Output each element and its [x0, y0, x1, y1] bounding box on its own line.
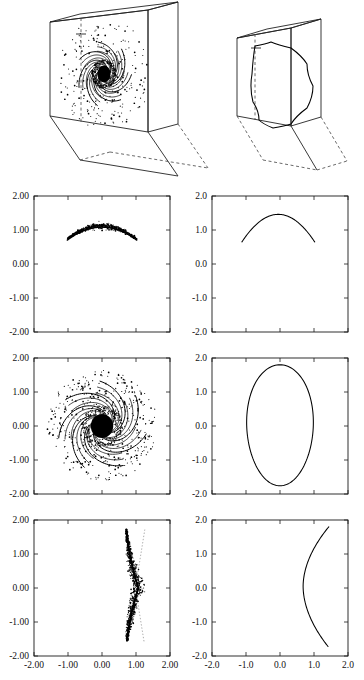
data-point [131, 83, 132, 84]
data-point [117, 415, 118, 416]
data-point [96, 404, 97, 405]
data-point [118, 26, 119, 27]
data-point [114, 68, 115, 69]
data-point [142, 63, 143, 64]
teardrop-curve [251, 42, 313, 128]
data-point [103, 456, 104, 457]
data-point [145, 423, 146, 424]
data-point [130, 546, 131, 547]
data-point [131, 439, 132, 440]
data-point [114, 99, 115, 100]
data-point [109, 225, 110, 226]
data-point [116, 29, 117, 30]
data-point [88, 425, 89, 426]
data-point [103, 87, 104, 88]
plot-r1c1: 2.001.000.00-1.00-2.00 [0, 186, 182, 344]
data-point [117, 446, 118, 447]
data-point [117, 379, 118, 380]
data-point [137, 447, 138, 448]
data-point [83, 418, 84, 419]
data-point [113, 226, 114, 227]
data-point [114, 111, 115, 112]
data-point [74, 112, 75, 113]
data-point [85, 383, 86, 384]
data-point [132, 618, 133, 619]
data-point [100, 122, 101, 123]
plot-frame [34, 520, 170, 656]
data-point [125, 475, 127, 477]
data-point [64, 54, 66, 56]
data-point [128, 47, 129, 48]
data-point [110, 71, 111, 72]
data-point [73, 91, 74, 92]
data-point [125, 631, 126, 632]
y-tick-label: -1.00 [9, 617, 29, 627]
data-point [87, 100, 89, 102]
data-point [93, 109, 94, 110]
data-point [72, 114, 73, 115]
data-point [139, 463, 141, 465]
data-point [134, 456, 135, 457]
data-point [66, 409, 67, 410]
data-point [88, 110, 89, 111]
data-point [135, 564, 136, 565]
data-point [65, 86, 66, 87]
data-point [141, 438, 142, 439]
data-point [93, 396, 95, 398]
data-point [126, 635, 127, 636]
data-point [134, 568, 135, 569]
data-point [110, 66, 111, 67]
data-point [131, 391, 133, 393]
panel-box-left [40, 4, 190, 180]
data-point [111, 63, 112, 64]
data-point [91, 35, 92, 36]
data-point [72, 110, 73, 111]
data-point [95, 68, 96, 69]
plot-r3c2: 2.0-2.01.0-1.00.00.0-1.01.0-2.02.0 [182, 510, 364, 680]
figure-root: 2.001.000.00-1.00-2.00 2.01.00.0-1.0-2.0… [0, 0, 364, 680]
spiral-core [91, 414, 113, 438]
data-point [117, 432, 118, 433]
data-point [103, 408, 104, 409]
data-point [109, 24, 111, 26]
data-point [121, 382, 122, 383]
data-point [112, 229, 113, 230]
data-point [118, 418, 119, 419]
data-point [54, 416, 56, 418]
data-point [153, 442, 154, 443]
data-point [115, 76, 116, 77]
data-point [63, 425, 64, 426]
data-point [120, 430, 121, 431]
y-tick-label: -2.0 [192, 651, 207, 661]
data-point [131, 87, 132, 88]
data-point [102, 59, 103, 60]
data-point [149, 420, 150, 421]
data-point [130, 575, 131, 576]
data-point [133, 586, 134, 587]
data-point [96, 224, 97, 225]
y-tick-label: -2.0 [192, 327, 207, 337]
data-point [138, 41, 140, 43]
data-point [112, 75, 113, 76]
data-point [121, 228, 122, 229]
data-point [144, 89, 146, 91]
data-point [114, 412, 115, 413]
data-point [148, 436, 150, 438]
data-point [88, 113, 90, 115]
data-point [100, 116, 101, 117]
data-point [127, 614, 128, 615]
data-point [126, 119, 127, 120]
data-point [99, 390, 101, 392]
y-tick-label: 2.0 [195, 515, 207, 525]
data-point [113, 70, 114, 71]
data-point [128, 608, 129, 609]
data-point [129, 605, 130, 606]
y-tick-label: 2.0 [195, 191, 207, 201]
panel-plot-r1c1: 2.001.000.00-1.00-2.00 [0, 186, 182, 344]
data-point [129, 600, 130, 601]
data-point [101, 64, 102, 65]
data-point [110, 473, 111, 474]
slab-box [50, 2, 208, 176]
data-point [88, 384, 90, 386]
data-point [87, 111, 88, 112]
